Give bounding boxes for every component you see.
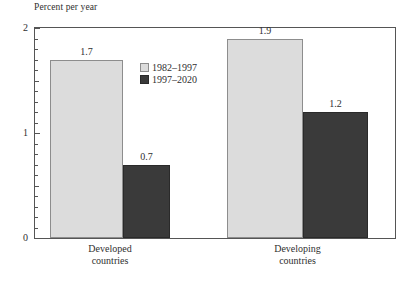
legend-item-1[interactable]: 1982–1997 xyxy=(140,62,197,73)
bar-value-label-1: 1.7 xyxy=(80,47,93,57)
category-label-line2: countries xyxy=(274,255,321,267)
bar-value-label-2: 0.7 xyxy=(140,152,153,162)
category-label-line1: Developed xyxy=(88,243,131,255)
category-label-1: Developedcountries xyxy=(88,243,131,267)
bar-value-label-3: 1.9 xyxy=(259,26,272,36)
y-axis-title: Percent per year xyxy=(34,2,97,12)
legend-label-2: 1997–2020 xyxy=(152,75,197,85)
category-label-line2: countries xyxy=(88,255,131,267)
bar-dark-4[interactable] xyxy=(303,112,368,238)
category-label-2: Developingcountries xyxy=(274,243,321,267)
legend-item-2[interactable]: 1997–2020 xyxy=(140,74,197,85)
chart-canvas: Percent per year 210 1.70.71.91.2 1982–1… xyxy=(0,0,412,282)
legend-swatch-light xyxy=(140,63,149,72)
category-label-line1: Developing xyxy=(274,243,321,255)
bar-value-label-4: 1.2 xyxy=(329,99,342,109)
y-tick-label-0: 0 xyxy=(23,233,28,243)
bar-dark-2[interactable] xyxy=(123,165,170,239)
bar-series-group: 1.70.71.91.2 xyxy=(35,28,395,238)
chart-legend: 1982–19971997–2020 xyxy=(140,62,197,86)
legend-label-1: 1982–1997 xyxy=(152,63,197,73)
y-axis-labels: 210 xyxy=(0,27,30,239)
bar-light-3[interactable] xyxy=(227,39,303,239)
y-tick-label-1: 1 xyxy=(23,128,28,138)
bar-light-1[interactable] xyxy=(50,60,123,239)
y-tick-0 xyxy=(35,238,40,239)
legend-swatch-dark xyxy=(140,75,149,84)
y-tick-label-2: 2 xyxy=(23,23,28,33)
